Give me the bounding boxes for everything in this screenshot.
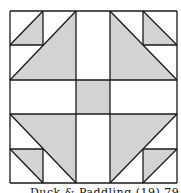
shaded-pieces (10, 11, 177, 183)
quilt-block-diagram (0, 0, 181, 186)
center-square (76, 80, 110, 114)
block-caption: Duck & Paddling (19) 79 (30, 186, 180, 193)
